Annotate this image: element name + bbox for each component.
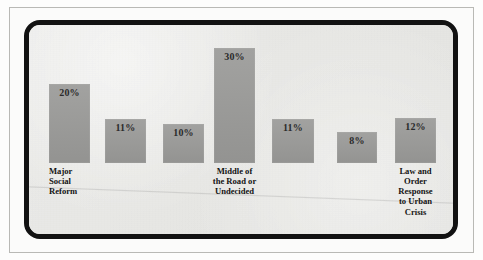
bar[interactable]: 30% (214, 48, 255, 163)
bar-value-label: 8% (337, 136, 377, 146)
bar-value-label: 11% (105, 123, 146, 133)
bar-category-label: Major Social Reform (49, 166, 119, 196)
bar[interactable]: 11% (272, 119, 314, 163)
bar[interactable]: 12% (395, 118, 436, 163)
bar-group: 30%Middle of the Road or Undecided (214, 48, 255, 163)
plot-area: 20%Major Social Reform11%10%30%Middle of… (29, 25, 453, 234)
bar-value-label: 30% (214, 52, 255, 62)
bar-category-label: Middle of the Road or Undecided (192, 166, 278, 196)
bar[interactable]: 11% (105, 119, 146, 163)
bar[interactable]: 20% (49, 84, 90, 163)
chart-page: 20%Major Social Reform11%10%30%Middle of… (0, 0, 483, 260)
bar-value-label: 10% (163, 128, 204, 138)
bar-group: 10% (163, 124, 204, 163)
chart-frame: 20%Major Social Reform11%10%30%Middle of… (24, 20, 458, 239)
bar-group: 11% (272, 119, 314, 163)
bar-value-label: 20% (49, 88, 90, 98)
bar-group: 8% (337, 132, 377, 163)
bar[interactable]: 10% (163, 124, 204, 163)
bar-value-label: 12% (395, 122, 436, 132)
bar[interactable]: 8% (337, 132, 377, 163)
bar-group: 20%Major Social Reform (49, 84, 90, 163)
bar-group: 12%Law and Order Response to Urban Crisi… (395, 118, 436, 163)
bar-value-label: 11% (272, 123, 314, 133)
bar-group: 11% (105, 119, 146, 163)
bar-category-label: Law and Order Response to Urban Crisis (373, 166, 459, 217)
